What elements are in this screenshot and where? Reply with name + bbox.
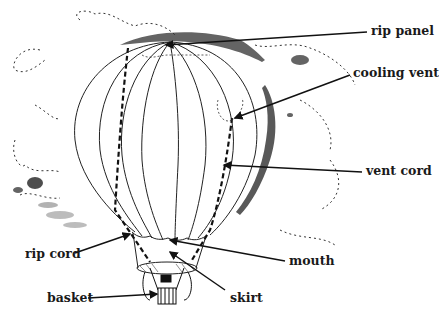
cloud-shading — [13, 32, 309, 228]
label-rip-cord: rip cord — [25, 248, 81, 261]
leader-vent-cord — [224, 165, 362, 172]
skirt-hatching — [140, 264, 194, 272]
label-skirt: skirt — [230, 292, 263, 305]
vent-cord-line — [192, 118, 232, 260]
cooling-vent-outline — [217, 98, 243, 121]
leader-mouth — [170, 240, 285, 261]
cloud-background — [14, 11, 355, 245]
label-vent-cord: vent cord — [366, 165, 432, 178]
leader-cooling-vent — [235, 75, 350, 118]
label-mouth: mouth — [289, 255, 335, 268]
balloon-envelope — [75, 42, 257, 274]
label-rip-panel: rip panel — [371, 25, 434, 38]
label-cooling-vent: cooling vent — [353, 67, 439, 80]
leader-rip-cord — [75, 234, 130, 253]
label-basket: basket — [47, 292, 93, 305]
